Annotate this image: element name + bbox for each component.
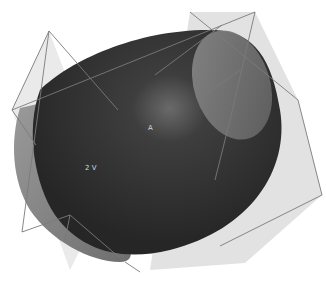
paraboloid-diagram: A 2 V [0, 0, 326, 281]
figure-canvas: A 2 V [0, 0, 326, 281]
center-label: A [148, 124, 153, 132]
lower-label: 2 V [85, 164, 97, 172]
